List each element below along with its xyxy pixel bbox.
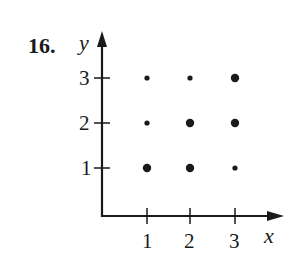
small-dot	[187, 75, 192, 80]
y-axis-arrowhead-icon	[97, 31, 107, 47]
y-tick-label-1: 1	[81, 156, 92, 180]
x-axis-label: x	[263, 223, 274, 248]
small-dot	[144, 120, 149, 125]
x-tick-label-2: 2	[184, 229, 195, 253]
x-tick-label-3: 3	[229, 229, 240, 253]
y-tick-label-2: 2	[79, 111, 90, 135]
data-points	[143, 74, 239, 172]
relation-dot-grid-figure: 16. y 3 2 1 1 2 3 x	[0, 0, 305, 264]
large-dot	[231, 74, 239, 82]
x-axis: 1 2 3 x	[101, 208, 284, 253]
small-dot	[232, 165, 237, 170]
large-dot	[231, 119, 239, 127]
small-dot	[144, 75, 149, 80]
large-dot	[186, 119, 194, 127]
large-dot	[186, 164, 194, 172]
x-tick-label-1: 1	[142, 229, 153, 253]
y-tick-label-3: 3	[79, 66, 90, 90]
problem-number: 16.	[28, 33, 56, 58]
large-dot	[143, 164, 151, 172]
y-axis: y 3 2 1	[77, 30, 110, 217]
x-axis-arrowhead-icon	[267, 211, 284, 221]
y-axis-label: y	[77, 30, 89, 55]
